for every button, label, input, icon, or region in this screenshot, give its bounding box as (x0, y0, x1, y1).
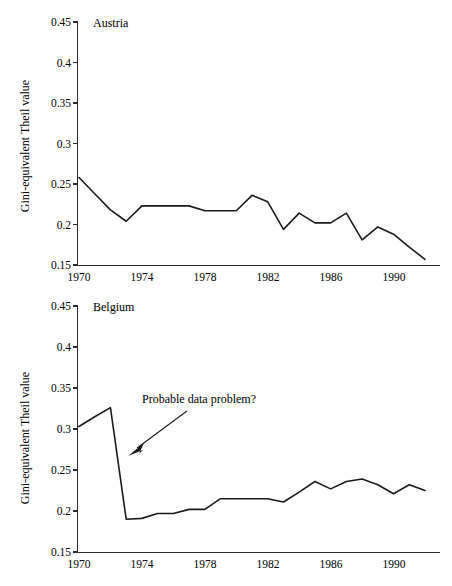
x-tick-label: 1974 (131, 271, 154, 283)
y-axis-ticks (73, 306, 78, 552)
annotation-arrow (128, 411, 187, 456)
data-line-belgium (79, 408, 425, 520)
annotation-label: Probable data problem? (142, 392, 256, 406)
chart-panel-austria: Gini-equivalent Theil value 0.45 0.4 0.3… (0, 0, 452, 290)
austria-plot: Gini-equivalent Theil value 0.45 0.4 0.3… (0, 0, 452, 290)
x-tick-label: 1982 (257, 558, 280, 570)
panel-title-austria: Austria (93, 16, 129, 30)
y-tick-label: 0.4 (57, 341, 72, 353)
y-tick-label: 0.15 (51, 259, 71, 271)
x-tick-label: 1990 (383, 558, 406, 570)
x-tick-label: 1978 (194, 558, 217, 570)
y-tick-label: 0.15 (51, 546, 71, 558)
y-tick-label: 0.4 (57, 57, 72, 69)
y-axis-title: Gini-equivalent Theil value (18, 372, 32, 504)
x-axis-tick-labels: 1970 1974 1978 1982 1986 1990 (68, 558, 406, 570)
y-axis-title: Gini-equivalent Theil value (18, 80, 32, 212)
x-tick-label: 1986 (320, 271, 343, 283)
x-tick-label: 1978 (194, 271, 217, 283)
y-tick-label: 0.25 (51, 178, 71, 190)
x-axis-tick-labels: 1970 1974 1978 1982 1986 1990 (68, 271, 406, 283)
y-axis-ticks (73, 22, 78, 265)
x-tick-label: 1982 (257, 271, 280, 283)
x-tick-label: 1970 (68, 558, 91, 570)
y-tick-label: 0.25 (51, 464, 71, 476)
y-tick-label: 0.2 (57, 219, 72, 231)
y-tick-label: 0.45 (51, 300, 71, 312)
belgium-plot: Gini-equivalent Theil value 0.45 0.4 0.3… (0, 290, 452, 586)
x-tick-label: 1974 (131, 558, 154, 570)
y-tick-label: 0.2 (57, 505, 72, 517)
y-tick-label: 0.3 (57, 138, 72, 150)
y-tick-label: 0.35 (51, 382, 71, 394)
y-axis-tick-labels: 0.45 0.4 0.35 0.3 0.25 0.2 0.15 (51, 16, 71, 271)
y-axis-tick-labels: 0.45 0.4 0.35 0.3 0.25 0.2 0.15 (51, 300, 71, 558)
data-line-austria (79, 178, 425, 260)
y-tick-label: 0.45 (51, 16, 71, 28)
x-tick-label: 1986 (320, 558, 343, 570)
y-tick-label: 0.3 (57, 423, 72, 435)
chart-panel-belgium: Gini-equivalent Theil value 0.45 0.4 0.3… (0, 290, 452, 586)
y-tick-label: 0.35 (51, 97, 71, 109)
x-tick-label: 1990 (383, 271, 406, 283)
figure-page: Gini-equivalent Theil value 0.45 0.4 0.3… (0, 0, 452, 586)
x-tick-label: 1970 (68, 271, 91, 283)
panel-title-belgium: Belgium (93, 300, 135, 314)
